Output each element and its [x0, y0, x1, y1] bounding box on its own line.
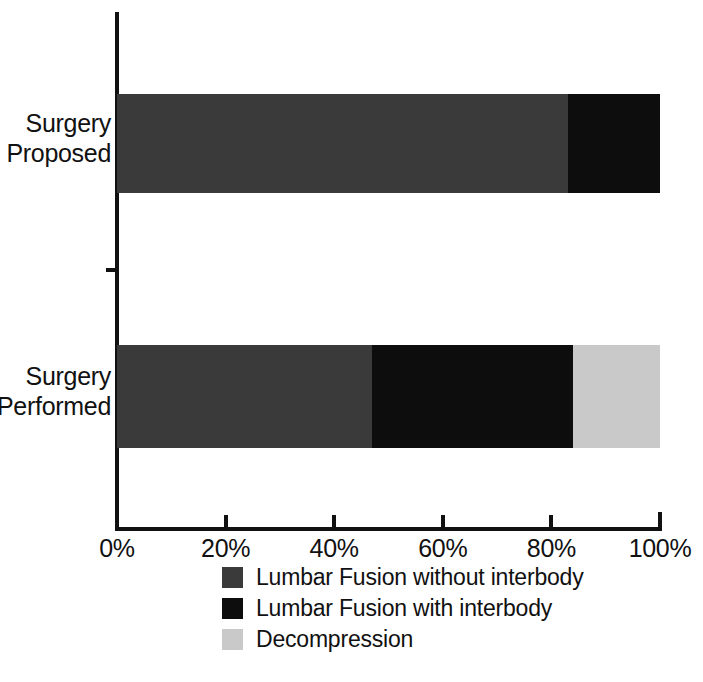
x-axis-line — [115, 527, 662, 531]
legend-item[interactable]: Decompression — [222, 624, 583, 655]
bar-segment — [372, 345, 573, 448]
stacked-bar-chart: 0%20%40%60%80%100% Surgery Proposed Surg… — [0, 0, 703, 682]
x-tick-mark — [332, 515, 336, 528]
x-tick-label: 40% — [310, 534, 359, 563]
x-tick-label: 60% — [418, 534, 467, 563]
legend-label: Lumbar Fusion with interbody — [256, 595, 552, 622]
bar-segment — [117, 94, 568, 193]
bar-surgery-performed — [117, 345, 660, 448]
legend-swatch-icon — [222, 567, 243, 588]
x-tick-mark — [549, 515, 553, 528]
bar-surgery-proposed — [117, 94, 660, 193]
legend-label: Lumbar Fusion without interbody — [256, 564, 583, 591]
chart-legend: Lumbar Fusion without interbodyLumbar Fu… — [222, 562, 583, 655]
x-tick-mark — [224, 515, 228, 528]
category-label-surgery-performed: Surgery Performed — [0, 361, 111, 421]
plot-area: 0%20%40%60%80%100% Surgery Proposed Surg… — [0, 0, 703, 560]
x-tick-label: 100% — [629, 534, 692, 563]
bar-segment — [573, 345, 660, 448]
x-tick-mark — [115, 512, 119, 528]
legend-swatch-icon — [222, 629, 243, 650]
legend-item[interactable]: Lumbar Fusion with interbody — [222, 593, 583, 624]
x-tick-label: 80% — [527, 534, 576, 563]
legend-item[interactable]: Lumbar Fusion without interbody — [222, 562, 583, 593]
y-axis-category-tick — [106, 268, 116, 272]
x-tick-label: 0% — [99, 534, 135, 563]
x-tick-mark — [441, 515, 445, 528]
bar-segment — [568, 94, 660, 193]
category-label-surgery-proposed: Surgery Proposed — [6, 108, 111, 168]
x-tick-mark — [658, 512, 662, 528]
legend-label: Decompression — [256, 626, 413, 653]
legend-swatch-icon — [222, 598, 243, 619]
x-tick-label: 20% — [201, 534, 250, 563]
bar-segment — [117, 345, 372, 448]
